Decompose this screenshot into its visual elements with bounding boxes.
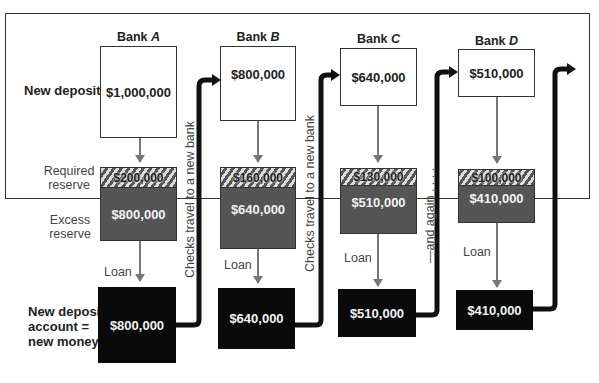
row-label-new-money-line3: new money — [28, 335, 105, 350]
bank-a-reserve-arrow — [139, 138, 141, 162]
bank-c-reserve-arrow — [377, 106, 379, 162]
bank-b-excess-value: $640,000 — [231, 202, 285, 217]
bank-d-title-name: Bank — [475, 34, 506, 48]
bank-b-new-money-box: $640,000 — [218, 288, 295, 349]
bank-b-title: Bank B — [220, 30, 296, 44]
bank-b-loan-arrow — [257, 249, 259, 283]
bank-a-excess-value: $800,000 — [111, 207, 165, 222]
bank-c-required-reserve-box: $130,000 — [340, 168, 417, 186]
row-label-new-deposits: New deposits — [24, 84, 108, 99]
row-label-required-reserve: Required reserve — [42, 164, 96, 193]
row-label-new-money: New deposit account = new money — [28, 305, 105, 350]
bank-c-title-name: Bank — [357, 32, 388, 46]
bank-d-new-money-value: $410,000 — [467, 303, 521, 318]
row-label-required-line1: Required — [42, 164, 96, 178]
bank-d-deposit-box: $510,000 — [458, 49, 535, 97]
bank-b-new-money-value: $640,000 — [229, 311, 283, 326]
bank-b-title-name: Bank — [236, 30, 267, 44]
row-label-new-money-line1: New deposit — [28, 305, 105, 320]
bank-a-new-money-value: $800,000 — [110, 318, 164, 333]
row-label-required-line2: reserve — [42, 178, 96, 192]
bank-d-required-value: $100,000 — [471, 171, 521, 185]
bank-b-deposit-value: $800,000 — [231, 67, 285, 82]
and-again-label: —and again . . . . — [423, 168, 437, 263]
bank-d-title-letter: D — [509, 34, 518, 48]
bank-a-deposit-value: $1,000,000 — [106, 85, 171, 100]
bank-a-new-money-box: $800,000 — [98, 287, 176, 363]
bank-b-deposit-box: $800,000 — [220, 46, 296, 121]
row-label-excess-line1: Excess — [44, 213, 96, 227]
bank-d-loan-label: Loan — [463, 245, 491, 259]
bank-c-excess-value: $510,000 — [351, 195, 405, 210]
bank-a-deposit-box: $1,000,000 — [100, 46, 177, 138]
bank-b-required-value: $160,000 — [233, 171, 283, 185]
bank-b-loan-label: Loan — [224, 258, 252, 272]
bank-c-new-money-box: $510,000 — [338, 289, 416, 337]
bank-c-title: Bank C — [340, 32, 417, 46]
bank-a-excess-reserve-box: $800,000 — [100, 187, 177, 241]
bank-c-title-letter: C — [391, 32, 400, 46]
bank-a-title-letter: A — [151, 30, 160, 44]
bank-a-title-name: Bank — [117, 30, 148, 44]
bank-d-excess-reserve-box: $410,000 — [458, 185, 535, 223]
checks-travel-label-1: Checks travel to a new bank — [183, 121, 197, 278]
bank-b-reserve-arrow — [257, 121, 259, 162]
bank-b-excess-reserve-box: $640,000 — [220, 187, 296, 249]
bank-c-required-value: $130,000 — [353, 170, 403, 184]
row-label-excess-reserve: Excess reserve — [44, 213, 96, 242]
bank-c-deposit-value: $640,000 — [351, 70, 405, 85]
bank-d-title: Bank D — [458, 34, 535, 48]
bank-c-deposit-box: $640,000 — [340, 48, 417, 106]
bank-a-loan-label: Loan — [104, 265, 132, 279]
bank-d-loan-arrow — [496, 223, 498, 287]
bank-b-required-reserve-box: $160,000 — [220, 167, 296, 188]
bank-c-excess-reserve-box: $510,000 — [340, 185, 417, 234]
row-label-excess-line2: reserve — [44, 227, 96, 241]
bank-d-deposit-value: $510,000 — [469, 66, 523, 81]
bank-c-loan-arrow — [377, 234, 379, 286]
bank-d-new-money-box: $410,000 — [456, 290, 533, 330]
bank-a-required-value: $200,000 — [113, 171, 163, 185]
bank-b-title-letter: B — [271, 30, 280, 44]
checks-travel-label-2: Checks travel to a new bank — [303, 115, 317, 272]
bank-a-required-reserve-box: $200,000 — [100, 167, 177, 188]
bank-a-loan-arrow — [139, 241, 141, 281]
bank-a-title: Bank A — [100, 30, 177, 44]
bank-c-loan-label: Loan — [344, 251, 372, 265]
bank-c-new-money-value: $510,000 — [350, 306, 404, 321]
bank-d-excess-value: $410,000 — [469, 191, 523, 206]
bank-d-required-reserve-box: $100,000 — [458, 169, 535, 186]
row-label-new-money-line2: account = — [28, 320, 105, 335]
bank-d-reserve-arrow — [496, 97, 498, 163]
